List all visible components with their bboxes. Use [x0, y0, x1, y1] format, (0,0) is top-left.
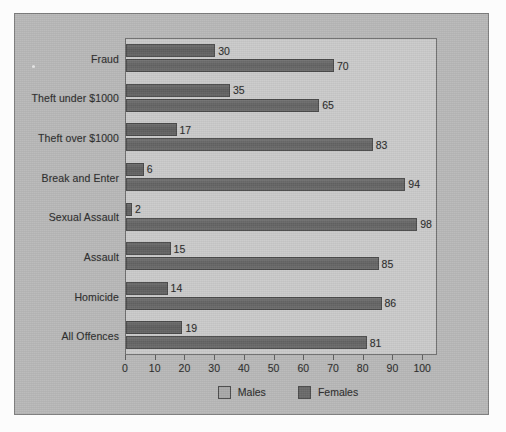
bar-value-label: 19 [185, 322, 197, 334]
x-tick-label: 70 [327, 362, 339, 374]
x-tick-label: 40 [238, 362, 250, 374]
bar-value-label: 14 [171, 282, 183, 294]
chart-row: Theft over $10001783 [126, 118, 436, 158]
legend-item-females[interactable]: Females [298, 386, 358, 399]
scan-speck [32, 65, 35, 68]
bar-males[interactable]: 81 [126, 336, 367, 349]
category-label: Homicide [74, 291, 119, 303]
x-tick [274, 355, 275, 360]
category-label: Assault [84, 251, 119, 263]
bar-value-label: 15 [174, 243, 186, 255]
x-tick [422, 355, 423, 360]
bar-females[interactable]: 30 [126, 44, 215, 57]
x-tick [155, 355, 156, 360]
bar-males[interactable]: 94 [126, 178, 405, 191]
bar-males[interactable]: 98 [126, 218, 417, 231]
chart-row: Homicide1486 [126, 277, 436, 317]
bar-females[interactable]: 19 [126, 321, 182, 334]
bar-value-label: 17 [180, 124, 192, 136]
bar-females[interactable]: 15 [126, 242, 171, 255]
bar-females[interactable]: 6 [126, 163, 144, 176]
bar-value-label: 6 [147, 163, 153, 175]
category-label: Theft under $1000 [31, 92, 119, 104]
bar-value-label: 30 [218, 45, 230, 57]
scanned-page: Fraud3070Theft under $10003565Theft over… [0, 0, 506, 432]
bar-females[interactable]: 2 [126, 203, 132, 216]
chart-legend: Males Females [125, 381, 451, 403]
category-label: Break and Enter [42, 172, 119, 184]
x-tick-label: 100 [413, 362, 431, 374]
x-tick-label: 80 [357, 362, 369, 374]
bar-males[interactable]: 86 [126, 297, 382, 310]
category-label: Theft over $1000 [38, 132, 119, 144]
x-tick-label: 30 [208, 362, 220, 374]
x-tick [125, 355, 126, 360]
x-tick-label: 90 [387, 362, 399, 374]
bar-value-label: 85 [382, 258, 394, 270]
chart-row: Break and Enter694 [126, 158, 436, 198]
x-tick [303, 355, 304, 360]
bar-value-label: 2 [135, 203, 141, 215]
bar-males[interactable]: 70 [126, 59, 334, 72]
x-tick [392, 355, 393, 360]
x-tick-label: 20 [179, 362, 191, 374]
legend-label-males: Males [238, 386, 266, 398]
x-tick-label: 0 [122, 362, 128, 374]
x-tick [363, 355, 364, 360]
bar-females[interactable]: 35 [126, 84, 230, 97]
x-tick [333, 355, 334, 360]
x-tick [244, 355, 245, 360]
category-label: Sexual Assault [49, 211, 119, 223]
bar-value-label: 81 [370, 337, 382, 349]
chart-row: All Offences1981 [126, 316, 436, 356]
x-tick-label: 60 [297, 362, 309, 374]
category-label: All Offences [61, 330, 119, 342]
x-tick [214, 355, 215, 360]
bar-males[interactable]: 83 [126, 138, 373, 151]
bar-value-label: 83 [376, 139, 388, 151]
bar-value-label: 86 [385, 297, 397, 309]
bar-value-label: 65 [322, 99, 334, 111]
legend-swatch-males [218, 386, 231, 399]
bar-females[interactable]: 14 [126, 282, 168, 295]
chart-row: Theft under $10003565 [126, 79, 436, 119]
bar-males[interactable]: 65 [126, 99, 319, 112]
bar-value-label: 70 [337, 60, 349, 72]
bar-males[interactable]: 85 [126, 257, 379, 270]
category-label: Fraud [91, 53, 119, 65]
chart-panel: Fraud3070Theft under $10003565Theft over… [14, 13, 489, 415]
bar-value-label: 94 [408, 178, 420, 190]
bar-females[interactable]: 17 [126, 123, 177, 136]
legend-label-females: Females [318, 386, 358, 398]
chart-row: Assault1585 [126, 237, 436, 277]
plot-area: Fraud3070Theft under $10003565Theft over… [125, 38, 437, 355]
bar-value-label: 98 [420, 218, 432, 230]
x-tick-label: 50 [268, 362, 280, 374]
chart-row: Sexual Assault298 [126, 198, 436, 238]
x-tick [184, 355, 185, 360]
legend-item-males[interactable]: Males [218, 386, 266, 399]
bar-value-label: 35 [233, 84, 245, 96]
legend-swatch-females [298, 386, 311, 399]
chart-row: Fraud3070 [126, 39, 436, 79]
x-tick-label: 10 [149, 362, 161, 374]
